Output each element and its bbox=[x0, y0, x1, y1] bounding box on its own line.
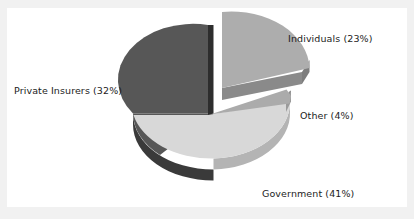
slice-individuals[interactable] bbox=[222, 12, 310, 100]
slice-label-government: Government (41%) bbox=[262, 189, 354, 199]
slice-private-insurers-top bbox=[118, 24, 208, 114]
slice-private-insurers-wallface bbox=[208, 25, 214, 125]
slice-label-individuals: Individuals (23%) bbox=[288, 34, 372, 44]
chart-figure: Individuals (23%) Private Insurers (32%)… bbox=[0, 0, 414, 219]
slice-label-private-insurers: Private Insurers (32%) bbox=[14, 86, 122, 96]
slice-label-other: Other (4%) bbox=[300, 111, 353, 121]
